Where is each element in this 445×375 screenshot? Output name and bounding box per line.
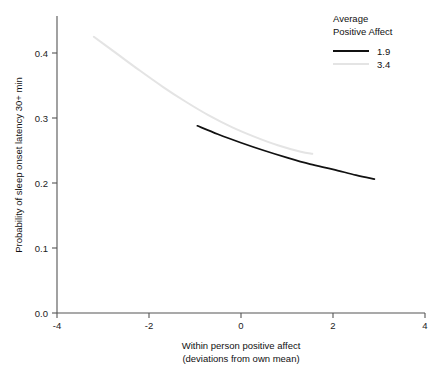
y-tick-label-3: 0.3 (35, 113, 48, 124)
legend-label-1-9: 1.9 (377, 46, 390, 57)
legend-label-3-4: 3.4 (377, 59, 390, 70)
legend-title-line1: Average (333, 13, 368, 24)
x-tick-label-2: 0 (238, 320, 243, 331)
y-tick-label-1: 0.1 (35, 243, 48, 254)
x-tick-label-4: 4 (422, 320, 427, 331)
line-chart-svg: 0.0 0.1 0.2 0.3 0.4 -4 -2 0 2 4 Probabil… (0, 0, 445, 375)
y-axis-title: Probability of sleep onset latency 30+ m… (13, 77, 24, 253)
x-axis-title-line1: Within person positive affect (182, 340, 301, 351)
chart-figure: 0.0 0.1 0.2 0.3 0.4 -4 -2 0 2 4 Probabil… (0, 0, 445, 375)
legend-title-line2: Positive Affect (333, 26, 393, 37)
x-tick-label-0: -4 (53, 320, 61, 331)
x-tick-label-3: 2 (330, 320, 335, 331)
y-tick-label-2: 0.2 (35, 178, 48, 189)
x-tick-label-1: -2 (145, 320, 153, 331)
x-axis-title-line2: (deviations from own mean) (182, 353, 299, 364)
y-tick-label-0: 0.0 (35, 308, 48, 319)
y-tick-label-4: 0.4 (35, 48, 48, 59)
